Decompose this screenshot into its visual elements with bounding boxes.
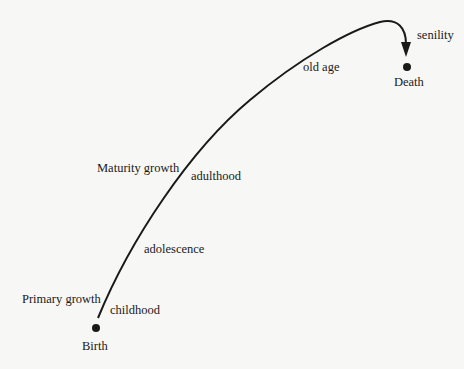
label-adolescence: adolescence xyxy=(144,243,204,256)
arrowhead-icon xyxy=(401,42,411,57)
birth-dot xyxy=(92,324,100,332)
label-old-age: old age xyxy=(303,61,339,74)
label-death: Death xyxy=(394,76,424,89)
death-dot xyxy=(403,63,411,71)
label-adulthood: adulthood xyxy=(191,170,241,183)
label-senility: senility xyxy=(417,29,454,42)
label-maturity-growth: Maturity growth xyxy=(97,162,179,175)
label-birth: Birth xyxy=(82,340,108,353)
label-childhood: childhood xyxy=(110,304,160,317)
life-curve-diagram xyxy=(0,0,464,369)
label-primary-growth: Primary growth xyxy=(22,293,101,306)
